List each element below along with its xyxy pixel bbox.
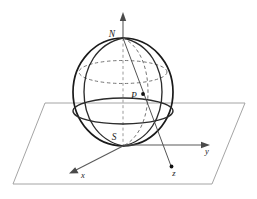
vertical-axis-arrowhead xyxy=(120,12,126,21)
label-point-P: P xyxy=(130,91,137,101)
axis-x xyxy=(69,146,123,174)
stereographic-projection-figure: N S P x y z xyxy=(0,0,257,199)
label-axis-x: x xyxy=(80,170,85,180)
meridian-front-left xyxy=(84,38,123,146)
x-axis-line xyxy=(76,146,123,170)
label-north-pole: N xyxy=(108,29,116,39)
horizontal-plane xyxy=(13,103,245,184)
meridian-arc-left xyxy=(84,38,123,146)
axis-y xyxy=(123,142,210,148)
x-axis-arrowhead xyxy=(69,167,79,173)
plane-parallelogram xyxy=(13,103,245,184)
figure-canvas: N S P x y z xyxy=(0,0,257,199)
vertical-axis xyxy=(120,12,126,146)
label-south-pole: S xyxy=(112,132,117,142)
label-axis-y: y xyxy=(204,146,209,156)
ray-north-pole-to-z xyxy=(123,38,171,166)
projection-ray xyxy=(123,38,171,166)
P-point xyxy=(141,92,145,96)
label-axis-z: z xyxy=(171,168,176,178)
P-point-marker xyxy=(141,92,145,96)
